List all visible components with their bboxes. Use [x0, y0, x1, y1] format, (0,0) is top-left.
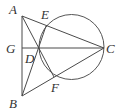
label-g: G	[6, 41, 16, 56]
circle	[39, 15, 104, 80]
label-e: E	[40, 7, 49, 22]
label-b: B	[9, 96, 17, 108]
segment-ac	[22, 16, 104, 48]
label-c: C	[106, 41, 115, 56]
label-a: A	[8, 2, 17, 17]
geometry-diagram: A B C D E F G	[0, 0, 121, 108]
segment-af	[22, 16, 54, 77]
label-f: F	[50, 80, 60, 95]
label-d: D	[24, 51, 35, 66]
